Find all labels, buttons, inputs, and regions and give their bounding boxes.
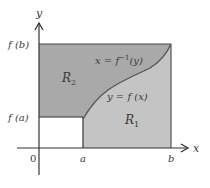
x-axis-label: x bbox=[193, 142, 200, 155]
tick-label-a: a bbox=[80, 153, 86, 164]
tick-label-b: b bbox=[168, 153, 174, 164]
origin-label: 0 bbox=[30, 153, 36, 164]
tick-label-f-b: f (b) bbox=[7, 39, 29, 50]
inverse-curve-label: x = f−1(y) bbox=[95, 54, 143, 66]
inverse-function-area-diagram: y x 0 a b f (a) f (b) R2 R1 x = f−1(y) y… bbox=[0, 0, 210, 188]
function-curve-label: y = f (x) bbox=[106, 91, 148, 102]
blank-region bbox=[39, 117, 83, 148]
y-axis-label: y bbox=[35, 7, 43, 20]
tick-label-f-a: f (a) bbox=[7, 112, 29, 123]
